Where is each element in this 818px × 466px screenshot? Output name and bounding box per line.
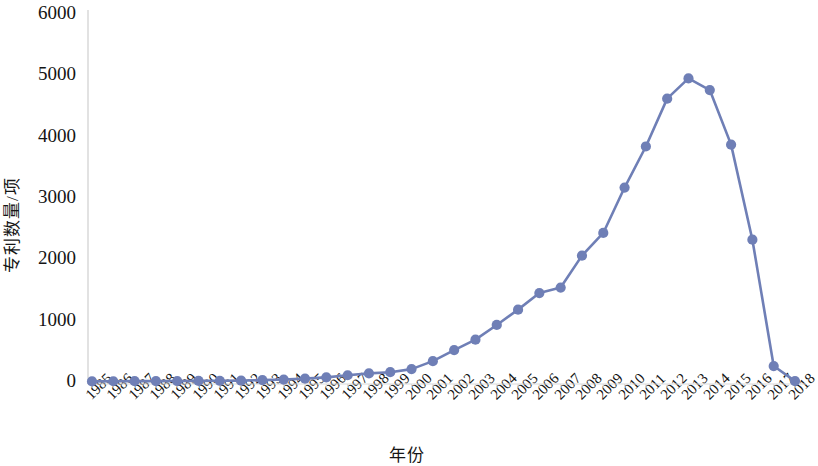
data-point-marker — [151, 376, 161, 386]
data-point-marker — [513, 305, 523, 315]
data-point-marker — [492, 320, 502, 330]
data-point-markers — [87, 73, 800, 386]
data-point-marker — [385, 367, 395, 377]
data-point-marker — [87, 376, 97, 386]
data-point-marker — [343, 370, 353, 380]
data-point-marker — [172, 376, 182, 386]
data-point-marker — [470, 335, 480, 345]
data-point-marker — [790, 376, 800, 386]
axis-lines — [88, 10, 806, 384]
data-point-marker — [406, 364, 416, 374]
data-point-marker — [215, 376, 225, 386]
data-point-marker — [279, 374, 289, 384]
data-point-marker — [257, 375, 267, 385]
data-point-marker — [364, 368, 374, 378]
data-point-marker — [726, 140, 736, 150]
data-point-marker — [108, 376, 118, 386]
data-point-marker — [747, 235, 757, 245]
data-point-marker — [236, 376, 246, 386]
data-point-marker — [534, 288, 544, 298]
data-point-marker — [321, 372, 331, 382]
data-point-marker — [598, 228, 608, 238]
data-point-marker — [662, 94, 672, 104]
data-series-line — [92, 78, 795, 381]
data-point-marker — [577, 251, 587, 261]
data-point-marker — [300, 374, 310, 384]
data-point-marker — [130, 376, 140, 386]
data-point-marker — [556, 282, 566, 292]
data-point-marker — [193, 376, 203, 386]
data-point-marker — [428, 356, 438, 366]
data-point-marker — [705, 85, 715, 95]
data-point-marker — [683, 73, 693, 83]
data-point-marker — [641, 141, 651, 151]
data-point-marker — [619, 182, 629, 192]
data-point-marker — [449, 345, 459, 355]
data-point-marker — [769, 361, 779, 371]
